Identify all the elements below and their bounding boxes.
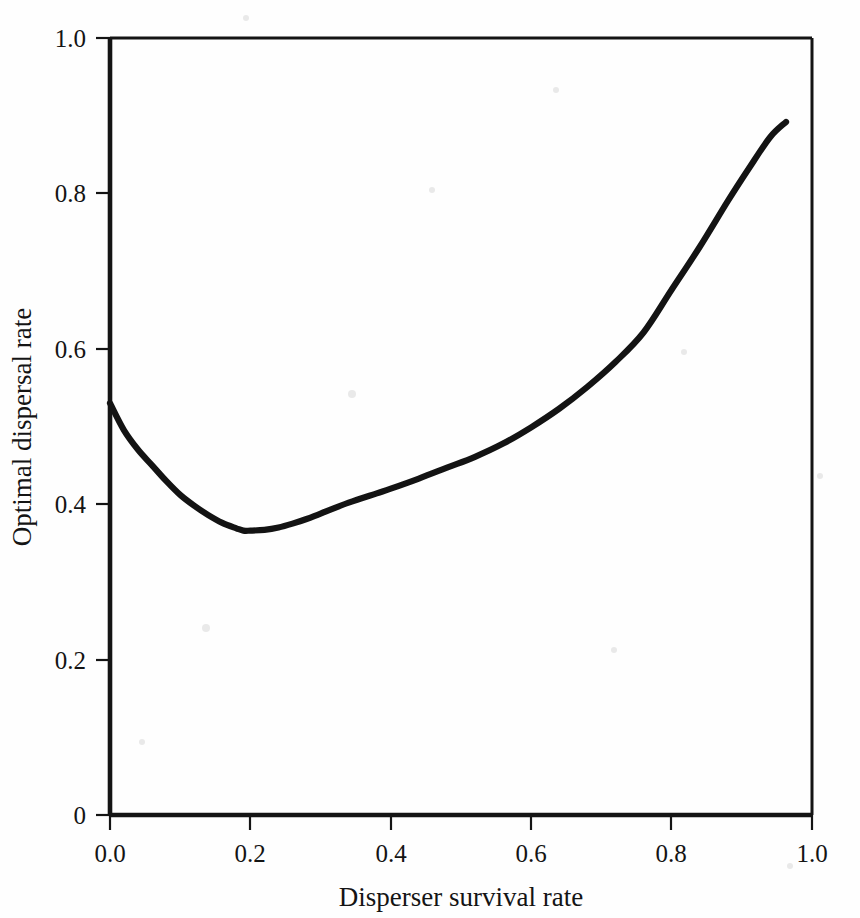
figure-container: 1.0 0.8 0.6 0.4 0.2 0 0.0 0.2 0.4 0.6 0.… [0, 0, 860, 918]
x-tick-label-0.0: 0.0 [94, 840, 125, 867]
y-tick-label-0.6: 0.6 [55, 336, 86, 363]
plot-frame [110, 38, 812, 815]
data-curve-optimal-dispersal-rate [110, 122, 786, 531]
x-tick-label-1.0: 1.0 [796, 840, 827, 867]
y-tick-label-0: 0 [74, 802, 87, 829]
y-tick-label-0.4: 0.4 [55, 491, 87, 518]
x-axis-title: Disperser survival rate [339, 882, 583, 912]
scan-artifacts [139, 15, 823, 869]
y-tick-label-0.8: 0.8 [55, 180, 86, 207]
x-tick-label-0.2: 0.2 [234, 840, 265, 867]
x-tick-label-0.4: 0.4 [375, 840, 407, 867]
x-tick-label-0.6: 0.6 [515, 840, 546, 867]
y-tick-label-1.0: 1.0 [55, 25, 86, 52]
y-axis-title: Optimal dispersal rate [7, 308, 37, 546]
chart-canvas: 1.0 0.8 0.6 0.4 0.2 0 0.0 0.2 0.4 0.6 0.… [0, 0, 860, 918]
x-tick-label-0.8: 0.8 [655, 840, 686, 867]
y-axis-tick-labels: 1.0 0.8 0.6 0.4 0.2 0 [55, 25, 87, 829]
y-tick-label-0.2: 0.2 [55, 647, 86, 674]
x-axis-tick-labels: 0.0 0.2 0.4 0.6 0.8 1.0 [94, 840, 827, 867]
